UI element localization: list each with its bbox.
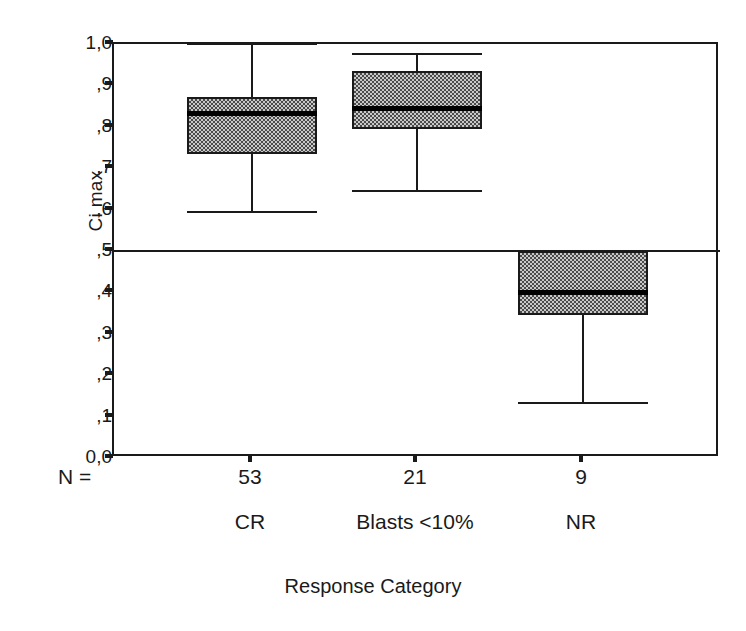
y-tick-label: ,4: [56, 281, 112, 300]
x-axis-title: Response Category: [0, 575, 746, 598]
y-tick-label: ,1: [56, 405, 112, 424]
median-line: [518, 290, 648, 295]
y-tick-label: ,2: [56, 364, 112, 383]
x-tick-mark: [413, 454, 417, 462]
lower-whisker-stem: [582, 315, 584, 403]
y-tick-label: 0,0: [56, 447, 112, 466]
category-label: NR: [566, 510, 596, 534]
y-tick-label: ,3: [56, 322, 112, 341]
y-tick-label: ,9: [56, 74, 112, 93]
category-label: CR: [235, 510, 265, 534]
plot-area: [112, 42, 718, 456]
boxplot-figure: Ci max 1,0,9,8,7,6,5,4,3,2,10,0 N = 53CR…: [0, 0, 746, 631]
n-value: 9: [575, 465, 587, 489]
n-value: 21: [403, 465, 426, 489]
y-tick-label: ,8: [56, 115, 112, 134]
boxplot-nr: [114, 44, 720, 458]
x-tick-mark: [579, 454, 583, 462]
y-tick-label: ,7: [56, 157, 112, 176]
box-iqr: [518, 251, 648, 315]
category-label: Blasts <10%: [356, 510, 473, 534]
x-tick-mark: [248, 454, 252, 462]
n-equals-label: N =: [58, 465, 91, 489]
y-tick-label: 1,0: [56, 33, 112, 52]
y-tick-label: ,5: [56, 240, 112, 259]
n-value: 53: [238, 465, 261, 489]
y-axis-ticks: 1,0,9,8,7,6,5,4,3,2,10,0: [0, 0, 112, 631]
lower-whisker-cap: [518, 402, 648, 404]
y-tick-label: ,6: [56, 198, 112, 217]
